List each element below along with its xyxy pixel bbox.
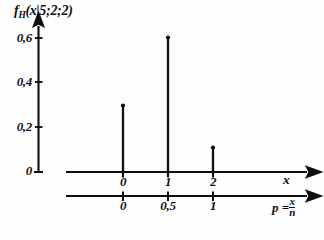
y-tick-label-0: 0 <box>0 163 32 179</box>
x-tick-label-1: 1 <box>148 174 188 190</box>
stem-marker-x0 <box>121 103 125 107</box>
y-tick-label-0-2: 0,2 <box>0 119 32 135</box>
p-axis-fraction-numerator: x <box>289 197 295 206</box>
y-tick-label-0-6: 0,6 <box>0 30 32 46</box>
stem-marker-x2 <box>211 145 215 149</box>
x-axis-name: x <box>283 172 290 188</box>
p-axis-name-lead: p = <box>272 200 289 215</box>
p-tick-label-0: 0 <box>103 198 143 214</box>
stem-marker-x1 <box>166 35 170 39</box>
p-axis-fraction: xn <box>289 197 295 217</box>
p-axis-fraction-denominator: n <box>289 208 295 217</box>
p-tick-label-1: 1 <box>193 198 233 214</box>
p-axis-name: p =xn <box>272 197 295 217</box>
x-tick-label-2: 2 <box>193 174 233 190</box>
x-tick-label-0: 0 <box>103 174 143 190</box>
y-tick-label-0-4: 0,4 <box>0 74 32 90</box>
y-axis-group <box>34 26 43 172</box>
stem-series <box>121 35 215 172</box>
p-tick-label-0-5: 0,5 <box>148 198 188 214</box>
